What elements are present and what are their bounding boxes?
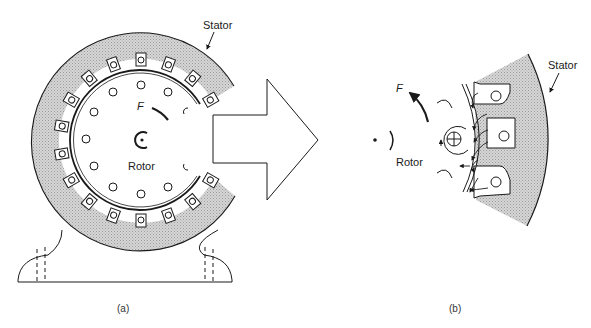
caption-b: (b) — [449, 303, 461, 314]
panel-b: F Rotor Stator (b) — [373, 54, 577, 314]
rotor-label-a: Rotor — [128, 160, 155, 172]
panel-a: F Rotor Stator (a) — [18, 19, 318, 314]
rotor-a — [70, 69, 212, 211]
caption-a: (a) — [117, 303, 129, 314]
rotor-label-b: Rotor — [396, 156, 423, 168]
stator-label-b: Stator — [548, 59, 578, 71]
stator-label-a: Stator — [203, 19, 233, 31]
zoom-arrow — [213, 79, 318, 200]
conductor-b — [441, 126, 468, 154]
force-label-b: F — [396, 82, 404, 94]
